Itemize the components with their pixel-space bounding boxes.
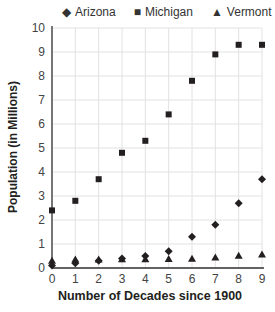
y-tick-label: 9 — [38, 45, 45, 59]
y-tick-label: 6 — [38, 117, 45, 131]
x-tick-label: 7 — [212, 272, 219, 286]
data-point-square — [72, 198, 78, 204]
data-point-square — [96, 176, 102, 182]
y-tick-label: 1 — [38, 237, 45, 251]
x-tick-label: 9 — [259, 272, 266, 286]
x-tick-label: 4 — [142, 272, 149, 286]
data-point-triangle — [165, 255, 173, 262]
data-point-triangle — [95, 256, 103, 263]
data-point-diamond — [165, 247, 173, 255]
data-point-square — [259, 42, 265, 48]
data-point-diamond — [211, 221, 219, 229]
y-tick-label: 3 — [38, 189, 45, 203]
plot-area: 0123456789012345678910 — [0, 0, 275, 312]
y-tick-label: 0 — [38, 261, 45, 275]
y-tick-label: 8 — [38, 69, 45, 83]
data-point-triangle — [71, 256, 79, 263]
data-point-square — [49, 207, 55, 213]
data-point-square — [212, 51, 218, 57]
data-point-diamond — [188, 233, 196, 241]
data-point-triangle — [188, 255, 196, 262]
y-axis-label: Population (in Millions) — [6, 72, 20, 222]
y-tick-label: 2 — [38, 213, 45, 227]
x-tick-label: 0 — [49, 272, 56, 286]
data-point-triangle — [211, 253, 219, 260]
x-tick-label: 6 — [189, 272, 196, 286]
data-point-square — [166, 111, 172, 117]
data-point-square — [236, 42, 242, 48]
data-point-triangle — [258, 251, 266, 258]
x-tick-label: 2 — [95, 272, 102, 286]
y-tick-label: 5 — [38, 141, 45, 155]
x-tick-label: 5 — [165, 272, 172, 286]
x-tick-label: 1 — [72, 272, 79, 286]
x-tick-label: 8 — [235, 272, 242, 286]
data-point-triangle — [48, 257, 56, 264]
data-point-square — [142, 138, 148, 144]
data-point-square — [119, 150, 125, 156]
x-axis-label: Number of Decades since 1900 — [30, 289, 270, 303]
data-point-triangle — [235, 252, 243, 259]
data-point-diamond — [258, 175, 266, 183]
y-tick-label: 4 — [38, 165, 45, 179]
y-tick-label: 7 — [38, 93, 45, 107]
data-point-diamond — [235, 199, 243, 207]
y-tick-label: 10 — [32, 21, 46, 35]
x-tick-label: 3 — [119, 272, 126, 286]
data-point-square — [189, 78, 195, 84]
